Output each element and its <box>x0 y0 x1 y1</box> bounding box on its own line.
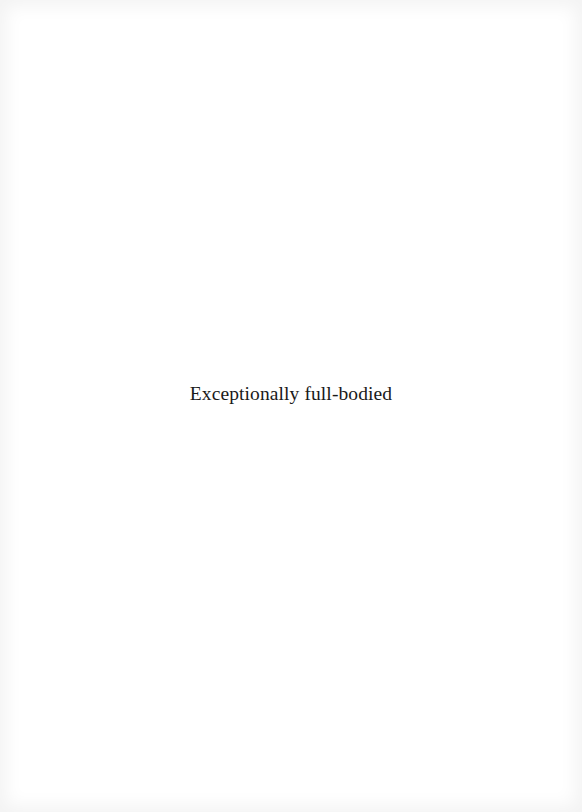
document-page: Exceptionally full-bodied <box>0 0 582 812</box>
page-caption: Exceptionally full-bodied <box>0 382 582 406</box>
